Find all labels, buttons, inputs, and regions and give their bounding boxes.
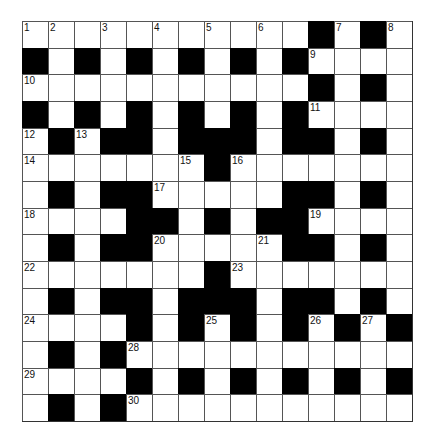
answer-cell[interactable] (152, 394, 178, 421)
answer-cell[interactable] (204, 101, 230, 128)
answer-cell[interactable]: 13 (74, 128, 100, 155)
answer-cell[interactable]: 24 (22, 314, 48, 341)
answer-cell[interactable] (152, 128, 178, 155)
answer-cell[interactable] (74, 154, 100, 181)
answer-cell[interactable]: 18 (22, 208, 48, 235)
answer-cell[interactable] (230, 74, 256, 101)
answer-cell[interactable] (256, 314, 282, 341)
answer-cell[interactable] (334, 181, 360, 208)
answer-cell[interactable] (100, 154, 126, 181)
answer-cell[interactable] (334, 234, 360, 261)
answer-cell[interactable]: 17 (152, 181, 178, 208)
answer-cell[interactable] (360, 48, 386, 75)
answer-cell[interactable] (100, 48, 126, 75)
answer-cell[interactable]: 8 (386, 21, 412, 48)
answer-cell[interactable] (74, 368, 100, 395)
answer-cell[interactable] (334, 261, 360, 288)
answer-cell[interactable] (282, 74, 308, 101)
answer-cell[interactable] (308, 261, 334, 288)
answer-cell[interactable] (386, 341, 412, 368)
answer-cell[interactable]: 16 (230, 154, 256, 181)
answer-cell[interactable] (256, 181, 282, 208)
answer-cell[interactable] (74, 21, 100, 48)
answer-cell[interactable] (48, 154, 74, 181)
answer-cell[interactable] (126, 154, 152, 181)
answer-cell[interactable] (386, 101, 412, 128)
answer-cell[interactable] (360, 208, 386, 235)
answer-cell[interactable] (334, 101, 360, 128)
answer-cell[interactable] (230, 181, 256, 208)
answer-cell[interactable] (230, 21, 256, 48)
answer-cell[interactable] (360, 394, 386, 421)
answer-cell[interactable] (282, 154, 308, 181)
answer-cell[interactable] (74, 394, 100, 421)
answer-cell[interactable] (256, 128, 282, 155)
answer-cell[interactable] (152, 341, 178, 368)
answer-cell[interactable] (360, 101, 386, 128)
answer-cell[interactable] (100, 101, 126, 128)
answer-cell[interactable] (256, 48, 282, 75)
answer-cell[interactable] (74, 74, 100, 101)
answer-cell[interactable]: 3 (100, 21, 126, 48)
answer-cell[interactable] (230, 234, 256, 261)
answer-cell[interactable] (334, 48, 360, 75)
answer-cell[interactable] (100, 74, 126, 101)
answer-cell[interactable] (48, 314, 74, 341)
answer-cell[interactable] (282, 394, 308, 421)
answer-cell[interactable]: 28 (126, 341, 152, 368)
answer-cell[interactable] (22, 234, 48, 261)
answer-cell[interactable] (74, 261, 100, 288)
answer-cell[interactable] (178, 341, 204, 368)
answer-cell[interactable] (74, 341, 100, 368)
answer-cell[interactable] (360, 154, 386, 181)
answer-cell[interactable] (22, 288, 48, 315)
answer-cell[interactable] (152, 101, 178, 128)
answer-cell[interactable]: 10 (22, 74, 48, 101)
answer-cell[interactable] (360, 368, 386, 395)
answer-cell[interactable] (334, 341, 360, 368)
answer-cell[interactable]: 1 (22, 21, 48, 48)
answer-cell[interactable] (256, 101, 282, 128)
answer-cell[interactable] (256, 288, 282, 315)
answer-cell[interactable] (74, 208, 100, 235)
answer-cell[interactable] (48, 208, 74, 235)
answer-cell[interactable] (152, 368, 178, 395)
answer-cell[interactable] (178, 74, 204, 101)
answer-cell[interactable] (334, 208, 360, 235)
answer-cell[interactable] (48, 261, 74, 288)
answer-cell[interactable]: 22 (22, 261, 48, 288)
answer-cell[interactable]: 4 (152, 21, 178, 48)
answer-cell[interactable] (100, 261, 126, 288)
answer-cell[interactable] (22, 341, 48, 368)
answer-cell[interactable] (334, 128, 360, 155)
answer-cell[interactable] (256, 341, 282, 368)
answer-cell[interactable] (126, 21, 152, 48)
answer-cell[interactable] (152, 74, 178, 101)
answer-cell[interactable] (308, 394, 334, 421)
answer-cell[interactable] (230, 341, 256, 368)
answer-cell[interactable] (360, 261, 386, 288)
answer-cell[interactable]: 14 (22, 154, 48, 181)
answer-cell[interactable]: 25 (204, 314, 230, 341)
answer-cell[interactable] (74, 288, 100, 315)
answer-cell[interactable] (308, 368, 334, 395)
answer-cell[interactable] (334, 74, 360, 101)
answer-cell[interactable] (386, 181, 412, 208)
answer-cell[interactable] (282, 21, 308, 48)
answer-cell[interactable] (386, 74, 412, 101)
answer-cell[interactable] (22, 394, 48, 421)
answer-cell[interactable] (100, 314, 126, 341)
answer-cell[interactable] (334, 288, 360, 315)
answer-cell[interactable] (100, 208, 126, 235)
answer-cell[interactable]: 29 (22, 368, 48, 395)
answer-cell[interactable] (204, 394, 230, 421)
answer-cell[interactable] (386, 154, 412, 181)
answer-cell[interactable] (256, 394, 282, 421)
answer-cell[interactable]: 30 (126, 394, 152, 421)
answer-cell[interactable] (152, 314, 178, 341)
answer-cell[interactable] (386, 288, 412, 315)
answer-cell[interactable]: 11 (308, 101, 334, 128)
answer-cell[interactable] (386, 261, 412, 288)
answer-cell[interactable] (48, 48, 74, 75)
answer-cell[interactable] (22, 181, 48, 208)
